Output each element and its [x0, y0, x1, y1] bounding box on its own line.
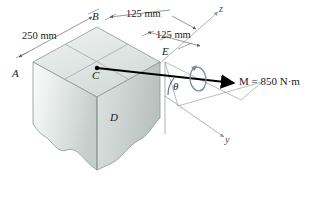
axis-label-z: z — [219, 4, 223, 14]
block-solid — [33, 27, 160, 170]
point-label-a: A — [12, 68, 19, 79]
point-label-e: E — [162, 46, 169, 57]
point-label-c: C — [92, 70, 99, 81]
moment-magnitude-label: M = 850 N·m — [239, 76, 300, 87]
dimension-label-125mm-top: 125 mm — [126, 9, 161, 20]
point-label-b: B — [92, 11, 99, 22]
point-label-d: D — [110, 112, 118, 123]
angle-label-theta: θ — [173, 81, 178, 92]
dimension-label-125mm-lower: 125 mm — [156, 30, 191, 41]
engineering-diagram: A B C D E z y 250 mm 125 mm 125 mm θ M =… — [0, 0, 311, 198]
axis-y — [165, 96, 224, 137]
dimension-label-250mm: 250 mm — [22, 31, 57, 42]
axis-label-y: y — [225, 135, 229, 145]
